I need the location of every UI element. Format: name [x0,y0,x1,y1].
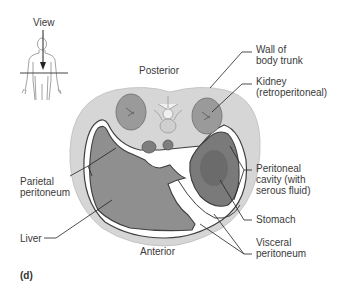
human-figure-icon [22,38,61,100]
parietal-peritoneum-label: Parietal peritoneum [20,176,70,198]
visceral-peritoneum-label: Visceral peritoneum [256,237,306,259]
liver-label: Liver [20,233,42,244]
arrow-head-icon [40,62,46,70]
panel-label: (d) [20,270,33,281]
wall-of-body-trunk-label: Wall of body trunk [256,44,303,66]
stomach-shading [200,150,228,186]
kidney-label: Kidney (retroperitoneal) [256,76,327,98]
aorta [142,141,156,153]
view-label: View [33,17,55,28]
peritoneal-cavity-label: Peritoneal cavity (with serous fluid) [256,163,310,196]
vena-cava [163,140,173,150]
posterior-label: Posterior [139,65,179,76]
stomach-label: Stomach [256,214,295,225]
anterior-label: Anterior [140,246,175,257]
